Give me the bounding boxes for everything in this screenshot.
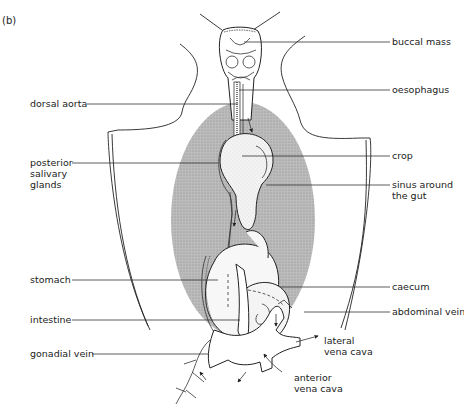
label-sinus-around-gut-1: sinus around (392, 179, 453, 190)
label-stomach: stomach (30, 274, 71, 285)
label-lateral-vena-cava-2: vena cava (324, 346, 373, 357)
panel-label: (b) (2, 15, 16, 26)
label-buccal-mass: buccal mass (392, 36, 451, 47)
label-posterior-salivary-glands-1: posterior (30, 157, 73, 168)
label-dorsal-aorta: dorsal aorta (30, 98, 87, 109)
label-caecum: caecum (392, 281, 429, 292)
label-intestine: intestine (30, 314, 72, 325)
label-anterior-vena-cava-1: anterior (294, 372, 332, 383)
label-sinus-around-gut-2: the gut (392, 190, 427, 201)
label-gonadial-vein: gonadial vein (30, 348, 94, 359)
label-lateral-vena-cava-1: lateral (324, 335, 354, 346)
label-oesophagus: oesophagus (392, 84, 449, 95)
label-posterior-salivary-glands-3: glands (30, 179, 62, 190)
label-abdominal-vein: abdominal vein (392, 306, 464, 317)
label-posterior-salivary-glands-2: salivary (30, 168, 67, 179)
anatomical-diagram: (b) (0, 0, 464, 410)
label-anterior-vena-cava-2: vena cava (294, 383, 343, 394)
label-crop: crop (392, 150, 413, 161)
